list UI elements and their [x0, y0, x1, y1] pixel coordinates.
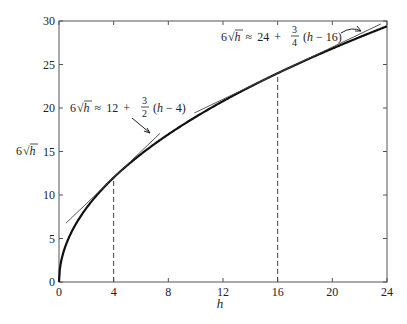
reference-lines: [114, 73, 278, 282]
arrow-head-icon: [355, 26, 361, 31]
arrow-h4: [132, 118, 150, 133]
y-tick-label: 10: [43, 188, 55, 202]
annotation-h4-numerator: 3: [142, 95, 147, 106]
curve-6-sqrt-h: [59, 26, 387, 282]
plot-border: [59, 21, 387, 282]
y-tick-label: 5: [49, 232, 55, 246]
tangent-line-h4: [66, 133, 160, 223]
annotation-tangent-h4: 6√h≈12+: [70, 101, 130, 115]
y-axis-label: 6√h: [16, 144, 36, 158]
x-tick-label: 8: [165, 285, 171, 299]
x-tick-label: 4: [111, 285, 117, 299]
axis-tick-labels: 04812162024051015202530: [43, 14, 393, 299]
series: [59, 24, 387, 282]
plot-frame: [59, 21, 387, 282]
axis-ticks: [59, 21, 387, 282]
x-tick-label: 24: [381, 285, 393, 299]
chart: 04812162024051015202530 6√h≈12+ 3 2 (h −…: [0, 0, 407, 324]
annotation-h16-tail: (h − 16): [303, 30, 342, 44]
y-tick-label: 15: [43, 145, 55, 159]
annotation-h16-numerator: 3: [292, 24, 297, 35]
annotation-tangent-h16: 6√h≈24+: [221, 30, 281, 44]
x-axis-label: h: [217, 296, 224, 311]
x-tick-label: 16: [272, 285, 284, 299]
y-tick-label: 30: [43, 14, 55, 28]
annotation-h16-denominator: 4: [292, 37, 297, 48]
annotations: 6√h≈12+ 3 2 (h − 4) 6√h≈24+ 3 4 (h − 16): [70, 24, 361, 133]
x-tick-label: 0: [56, 285, 62, 299]
y-tick-label: 20: [43, 101, 55, 115]
y-tick-label: 0: [49, 275, 55, 289]
x-tick-label: 20: [326, 285, 338, 299]
annotation-h4-tail: (h − 4): [153, 101, 186, 115]
y-tick-label: 25: [43, 58, 55, 72]
annotation-h4-denominator: 2: [142, 108, 147, 119]
